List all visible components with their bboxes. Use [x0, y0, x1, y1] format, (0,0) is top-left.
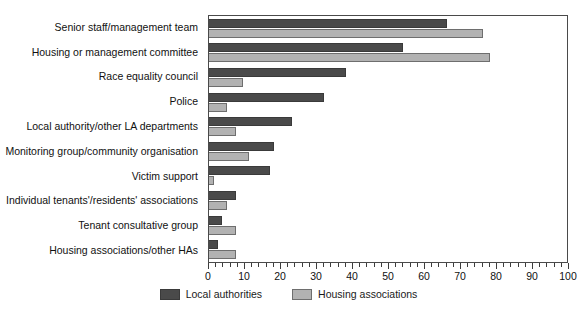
x-tick-minor — [309, 263, 310, 267]
x-tick-label: 60 — [418, 270, 430, 282]
x-tick-minor — [251, 263, 252, 267]
category-label: Monitoring group/community organisation — [0, 139, 203, 164]
bar-housing-associations — [209, 78, 243, 87]
category-label: Local authority/other LA departments — [0, 114, 203, 139]
x-tick-major — [388, 263, 389, 269]
category-label: Individual tenants'/residents' associati… — [0, 189, 203, 214]
x-tick-label: 10 — [238, 270, 250, 282]
x-tick-minor — [474, 263, 475, 267]
x-tick-minor — [489, 263, 490, 267]
x-tick-minor — [323, 263, 324, 267]
bar-group — [209, 16, 567, 41]
plot-area — [208, 15, 568, 263]
legend-swatch-icon — [160, 289, 180, 300]
bar-housing-associations — [209, 201, 227, 210]
x-tick-label: 20 — [274, 270, 286, 282]
x-tick-minor — [395, 263, 396, 267]
x-tick-minor — [410, 263, 411, 267]
x-tick-minor — [345, 263, 346, 267]
bar-housing-associations — [209, 176, 214, 185]
bar-local-authorities — [209, 68, 346, 77]
x-tick-minor — [417, 263, 418, 267]
bar-group — [209, 213, 567, 238]
bar-group — [209, 41, 567, 66]
x-tick-minor — [366, 263, 367, 267]
x-tick-minor — [237, 263, 238, 267]
bar-group — [209, 114, 567, 139]
x-tick-major — [568, 263, 569, 269]
x-tick-minor — [546, 263, 547, 267]
x-tick-minor — [446, 263, 447, 267]
category-label: Tenant consultative group — [0, 213, 203, 238]
bar-chart: Senior staff/management teamHousing or m… — [0, 0, 577, 321]
x-tick-major — [208, 263, 209, 269]
bar-group — [209, 139, 567, 164]
bar-housing-associations — [209, 152, 249, 161]
chart-legend: Local authoritiesHousing associations — [0, 288, 577, 300]
bar-housing-associations — [209, 226, 236, 235]
bar-housing-associations — [209, 250, 236, 259]
x-tick-minor — [467, 263, 468, 267]
bar-group — [209, 164, 567, 189]
x-tick-major — [424, 263, 425, 269]
x-tick-major — [496, 263, 497, 269]
x-tick-minor — [482, 263, 483, 267]
x-tick-major — [460, 263, 461, 269]
x-tick-label: 80 — [490, 270, 502, 282]
bar-local-authorities — [209, 142, 274, 151]
x-tick-minor — [561, 263, 562, 267]
x-tick-minor — [294, 263, 295, 267]
x-tick-minor — [359, 263, 360, 267]
x-tick-minor — [453, 263, 454, 267]
bar-local-authorities — [209, 93, 324, 102]
x-tick-minor — [503, 263, 504, 267]
x-tick-minor — [266, 263, 267, 267]
x-tick-minor — [438, 263, 439, 267]
category-axis-labels: Senior staff/management teamHousing or m… — [0, 15, 203, 263]
bar-housing-associations — [209, 127, 236, 136]
x-tick-label: 70 — [454, 270, 466, 282]
x-tick-minor — [330, 263, 331, 267]
x-tick-minor — [554, 263, 555, 267]
x-tick-major — [316, 263, 317, 269]
x-tick-minor — [302, 263, 303, 267]
x-tick-minor — [381, 263, 382, 267]
category-label: Victim support — [0, 164, 203, 189]
x-tick-minor — [273, 263, 274, 267]
x-tick-major — [532, 263, 533, 269]
legend-item[interactable]: Housing associations — [292, 288, 417, 300]
bar-housing-associations — [209, 53, 490, 62]
x-tick-minor — [518, 263, 519, 267]
x-tick-minor — [431, 263, 432, 267]
x-tick-label: 40 — [346, 270, 358, 282]
x-tick-major — [244, 263, 245, 269]
bar-housing-associations — [209, 103, 227, 112]
bar-group — [209, 237, 567, 262]
legend-swatch-icon — [292, 289, 312, 300]
bar-group — [209, 90, 567, 115]
x-tick-minor — [402, 263, 403, 267]
x-tick-major — [280, 263, 281, 269]
bar-local-authorities — [209, 216, 222, 225]
bar-local-authorities — [209, 166, 270, 175]
bar-housing-associations — [209, 29, 483, 38]
x-tick-major — [352, 263, 353, 269]
legend-label: Housing associations — [318, 288, 417, 300]
x-tick-label: 30 — [310, 270, 322, 282]
x-tick-minor — [374, 263, 375, 267]
x-tick-label: 100 — [559, 270, 577, 282]
legend-item[interactable]: Local authorities — [160, 288, 262, 300]
bar-local-authorities — [209, 43, 403, 52]
category-label: Housing associations/other HAs — [0, 238, 203, 263]
bar-local-authorities — [209, 117, 292, 126]
category-label: Housing or management committee — [0, 40, 203, 65]
category-label: Race equality council — [0, 65, 203, 90]
x-tick-minor — [230, 263, 231, 267]
x-tick-label: 90 — [526, 270, 538, 282]
x-axis: 0102030405060708090100 — [208, 263, 569, 264]
x-tick-minor — [338, 263, 339, 267]
bar-local-authorities — [209, 19, 447, 28]
x-tick-minor — [222, 263, 223, 267]
x-tick-label: 50 — [382, 270, 394, 282]
bar-local-authorities — [209, 240, 218, 249]
